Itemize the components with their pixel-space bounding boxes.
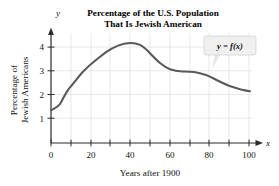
chart-canvas: Percentage of the U.S. Population That I… xyxy=(0,0,279,186)
chart-title-line-2: That Is Jewish American xyxy=(104,19,202,29)
y-tick-label-4: 4 xyxy=(40,42,45,52)
callout-label: y = f(x) xyxy=(216,41,243,51)
x-tick-label-80: 80 xyxy=(205,150,215,160)
x-tick-label-40: 40 xyxy=(126,150,136,160)
x-tick-label-0: 0 xyxy=(49,150,54,160)
y-axis-caption-line-1: Percentage of xyxy=(9,64,19,115)
x-tick-label-20: 20 xyxy=(87,150,97,160)
y-axis-name: y xyxy=(55,8,60,18)
x-axis: 0 20 40 60 80 100 x xyxy=(49,138,270,160)
x-axis-caption: Years after 1900 xyxy=(120,168,181,178)
chart-title-line-1: Percentage of the U.S. Population xyxy=(87,8,219,18)
y-axis: 1 2 3 4 y xyxy=(40,8,61,143)
y-axis-caption: Percentage of Jewish Americans xyxy=(9,56,30,123)
chart-title: Percentage of the U.S. Population That I… xyxy=(87,8,219,29)
y-axis-caption-line-2: Jewish Americans xyxy=(20,56,30,123)
function-callout: y = f(x) xyxy=(204,36,256,69)
y-tick-label-3: 3 xyxy=(40,66,45,76)
x-axis-name: x xyxy=(265,138,270,148)
y-axis-arrow-icon xyxy=(48,28,54,36)
x-tick-label-100: 100 xyxy=(242,150,256,160)
chart-figure: Percentage of the U.S. Population That I… xyxy=(0,0,279,186)
y-tick-label-2: 2 xyxy=(40,90,45,100)
x-tick-label-60: 60 xyxy=(166,150,176,160)
y-tick-label-1: 1 xyxy=(40,114,45,124)
x-axis-arrow-icon xyxy=(256,140,264,146)
